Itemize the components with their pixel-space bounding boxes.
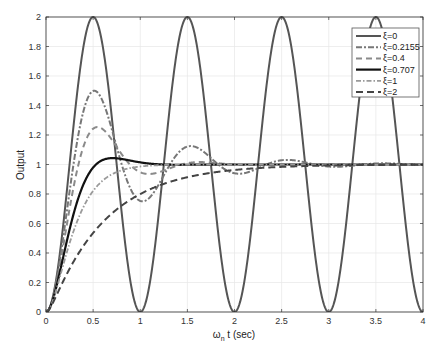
x-tick-label: 3 [326, 316, 331, 326]
legend-label: ξ=0.2155 [383, 42, 420, 52]
step-response-chart: 00.511.522.533.54 00.20.40.60.811.21.41.… [0, 0, 441, 354]
y-tick-label: 1.8 [28, 42, 41, 52]
x-tick-label: 1 [138, 316, 143, 326]
x-tick-label: 1.5 [181, 316, 194, 326]
x-tick-label: 0 [43, 316, 48, 326]
x-tick-label: 3.5 [370, 316, 383, 326]
y-tick-label: 1.4 [28, 101, 41, 111]
y-tick-label: 0.4 [28, 248, 41, 258]
y-tick-label: 0 [36, 307, 41, 317]
y-axis-label: Output [15, 150, 26, 180]
legend: ξ=0ξ=0.2155ξ=0.4ξ=0.707ξ=1ξ=2 [352, 28, 420, 97]
y-tick-label: 2 [36, 12, 41, 22]
x-axis-label-rest: t (sec) [225, 329, 256, 340]
legend-label: ξ=0.707 [383, 65, 415, 75]
y-tick-label: 0.2 [28, 278, 41, 288]
y-tick-label: 1.6 [28, 71, 41, 81]
legend-label: ξ=0.4 [383, 53, 405, 63]
x-tick-label: 2.5 [275, 316, 288, 326]
y-tick-label: 1 [36, 160, 41, 170]
legend-label: ξ=2 [383, 87, 397, 97]
legend-label: ξ=1 [383, 76, 397, 86]
y-tick-label: 0.8 [28, 189, 41, 199]
legend-label: ξ=0 [383, 31, 397, 41]
y-tick-label: 1.2 [28, 130, 41, 140]
x-tick-label: 4 [420, 316, 425, 326]
y-tick-label: 0.6 [28, 219, 41, 229]
x-axis-label-omega: ω [213, 329, 221, 340]
x-tick-label: 0.5 [87, 316, 100, 326]
x-tick-label: 2 [232, 316, 237, 326]
